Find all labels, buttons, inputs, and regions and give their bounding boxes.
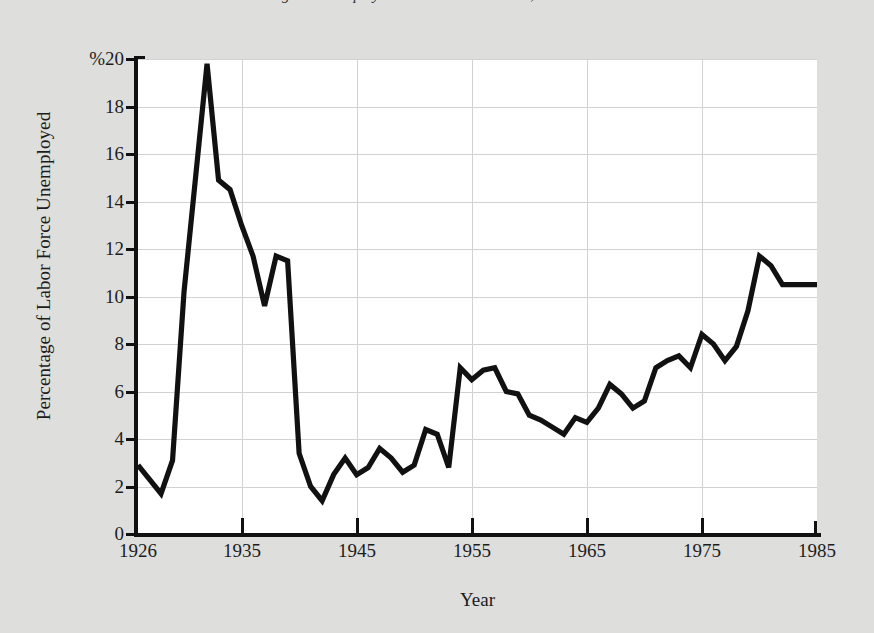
x-axis-tick-label: 1926 xyxy=(93,541,183,560)
unemployment-line-series xyxy=(138,59,817,534)
y-axis-tick xyxy=(126,248,138,251)
x-axis-title: Year xyxy=(138,589,817,611)
figure-title: Figure: Unemployment in the United State… xyxy=(0,0,874,3)
x-axis-tick-label: 1955 xyxy=(427,541,517,560)
y-axis-tick-label: 8 xyxy=(0,334,124,353)
x-axis-tick-label: 1935 xyxy=(197,541,287,560)
y-axis-tick-label: 18 xyxy=(0,97,124,116)
y-axis-tick-label: 12 xyxy=(0,239,124,258)
y-axis-tick xyxy=(126,153,138,156)
x-axis-tick-label: 1945 xyxy=(312,541,402,560)
y-axis-tick xyxy=(126,438,138,441)
y-axis-tick xyxy=(126,58,138,61)
y-axis-tick xyxy=(126,391,138,394)
y-axis-tick-label: 2 xyxy=(0,477,124,496)
y-axis-tick xyxy=(126,296,138,299)
y-axis-tick-label: 4 xyxy=(0,429,124,448)
x-axis-tick-label: 1985 xyxy=(772,541,862,560)
series-polyline xyxy=(138,64,817,501)
y-axis-tick xyxy=(126,533,138,536)
x-axis-tick-label: 1965 xyxy=(542,541,632,560)
y-axis-tick-label: 16 xyxy=(0,144,124,163)
y-axis-tick-label: 14 xyxy=(0,192,124,211)
y-axis-tick xyxy=(126,106,138,109)
y-axis-tick-label: 10 xyxy=(0,287,124,306)
y-axis-title: Percentage of Labor Force Unemployed xyxy=(33,56,55,476)
y-axis-tick-label: %20 xyxy=(0,49,124,68)
y-axis-tick xyxy=(126,201,138,204)
y-axis-tick xyxy=(126,486,138,489)
x-axis-tick-label: 1975 xyxy=(657,541,747,560)
y-axis-tick xyxy=(126,343,138,346)
y-axis-tick-label: 6 xyxy=(0,382,124,401)
chart-figure: Figure: Unemployment in the United State… xyxy=(0,0,874,633)
